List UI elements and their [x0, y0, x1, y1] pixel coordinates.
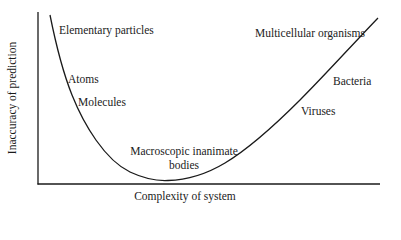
label-molecules: Molecules [78, 96, 126, 108]
x-axis-label: Complexity of system [125, 190, 245, 202]
y-axis-label: Inaccuracy of prediction [6, 42, 18, 154]
label-elementary-particles: Elementary particles [59, 24, 154, 36]
label-atoms: Atoms [68, 73, 99, 85]
label-macroscopic-inanimate: Macroscopic inanimate [124, 145, 244, 157]
label-bodies: bodies [124, 159, 244, 171]
label-multicellular-organisms: Multicellular organisms [255, 27, 365, 39]
label-bacteria: Bacteria [333, 75, 371, 87]
label-viruses: Viruses [301, 105, 335, 117]
